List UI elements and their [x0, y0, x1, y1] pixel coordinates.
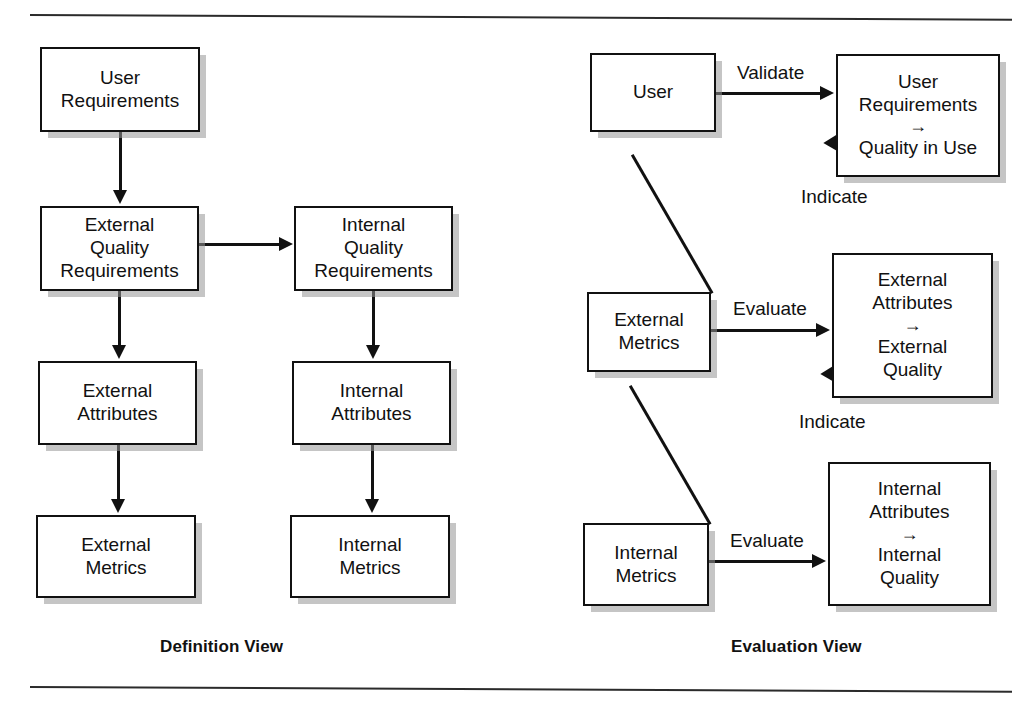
node-user: User: [590, 53, 716, 132]
node-line: Internal: [340, 380, 403, 403]
arrowhead-user-req-to-ext-qual-req: [113, 190, 127, 204]
node-line: Quality: [883, 359, 942, 382]
arrowhead-ext-attributes-to-ext-metrics: [111, 499, 125, 513]
maps-to-arrow-icon: →: [904, 316, 922, 335]
node-internal-attributes: Internal Attributes: [292, 361, 451, 445]
connector-indicate-lower: [629, 385, 711, 525]
node-external-attributes-quality: External Attributes → External Quality: [832, 253, 993, 398]
node-line: External: [81, 534, 151, 557]
edge-label-indicate-lower: Indicate: [799, 411, 866, 433]
edge-label-evaluate-internal: Evaluate: [730, 530, 804, 552]
node-line: Quality in Use: [859, 137, 977, 160]
connector-validate: [716, 92, 820, 95]
node-line: External: [85, 214, 155, 237]
node-line: Attributes: [872, 292, 952, 315]
arrowhead-validate: [820, 86, 834, 100]
node-line: Attributes: [77, 403, 157, 426]
node-external-metrics: External Metrics: [36, 515, 196, 598]
figure-canvas: User Requirements External Quality Requi…: [0, 0, 1026, 712]
caption-definition-view: Definition View: [160, 637, 283, 657]
connector-ext-qual-req-to-ext-attributes: [118, 291, 121, 347]
node-line: Internal: [878, 478, 941, 501]
edge-label-indicate-upper: Indicate: [801, 186, 868, 208]
node-line: User: [633, 81, 673, 104]
connector-ext-qual-req-to-int-qual-req: [199, 243, 279, 246]
connector-evaluate-external: [711, 329, 816, 332]
caption-evaluation-view: Evaluation View: [731, 637, 862, 657]
node-line: Internal: [614, 542, 677, 565]
maps-to-arrow-icon: →: [909, 117, 927, 136]
node-external-quality-requirements: External Quality Requirements: [40, 206, 199, 291]
node-eval-external-metrics: External Metrics: [587, 292, 711, 372]
bottom-divider-rule: [30, 686, 1012, 693]
node-line: External: [83, 380, 153, 403]
node-line: Quality: [880, 567, 939, 590]
connector-int-attributes-to-int-metrics: [371, 445, 374, 501]
node-line: External: [614, 309, 684, 332]
node-line: User: [898, 71, 938, 94]
node-line: Internal: [338, 534, 401, 557]
arrowhead-int-attributes-to-int-metrics: [365, 499, 379, 513]
node-line: Metrics: [618, 332, 679, 355]
node-internal-attributes-quality: Internal Attributes → Internal Quality: [828, 462, 991, 606]
arrowhead-evaluate-internal: [812, 554, 826, 568]
node-line: Quality: [344, 237, 403, 260]
node-line: Metrics: [339, 557, 400, 580]
arrowhead-ext-qual-req-to-int-qual-req: [279, 237, 293, 251]
node-line: External: [878, 269, 948, 292]
node-internal-quality-requirements: Internal Quality Requirements: [294, 206, 453, 291]
node-line: Requirements: [314, 260, 432, 283]
arrowhead-int-qual-req-to-int-attributes: [366, 345, 380, 359]
connector-indicate-upper: [631, 154, 713, 294]
edge-label-evaluate-external: Evaluate: [733, 298, 807, 320]
node-line: Metrics: [615, 565, 676, 588]
node-line: Metrics: [85, 557, 146, 580]
maps-to-arrow-icon: →: [901, 525, 919, 544]
node-line: Requirements: [60, 260, 178, 283]
node-line: Attributes: [331, 403, 411, 426]
node-user-requirements: User Requirements: [40, 47, 200, 132]
node-line: Requirements: [61, 90, 179, 113]
connector-int-qual-req-to-int-attributes: [372, 291, 375, 347]
arrowhead-evaluate-external: [816, 323, 830, 337]
arrowhead-ext-qual-req-to-ext-attributes: [112, 345, 126, 359]
node-line: Internal: [878, 544, 941, 567]
node-eval-internal-metrics: Internal Metrics: [583, 523, 709, 606]
node-line: Attributes: [869, 501, 949, 524]
connector-user-req-to-ext-qual-req: [119, 132, 122, 192]
edge-label-validate: Validate: [737, 62, 804, 84]
connector-evaluate-internal: [709, 560, 812, 563]
top-divider-rule: [30, 14, 1012, 21]
node-line: Internal: [342, 214, 405, 237]
connector-ext-attributes-to-ext-metrics: [117, 445, 120, 501]
node-line: Requirements: [859, 94, 977, 117]
node-line: External: [878, 336, 948, 359]
node-internal-metrics: Internal Metrics: [290, 515, 450, 598]
node-user-requirements-quality-in-use: User Requirements → Quality in Use: [836, 54, 1000, 177]
node-line: Quality: [90, 237, 149, 260]
node-line: User: [100, 67, 140, 90]
node-external-attributes: External Attributes: [38, 361, 197, 445]
